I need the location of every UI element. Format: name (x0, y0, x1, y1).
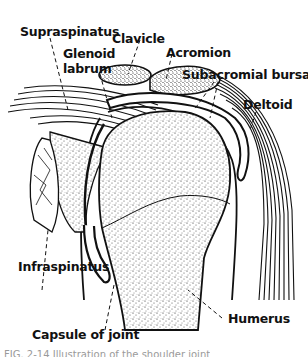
humerus-bone (99, 111, 230, 330)
leader-capsule (105, 285, 114, 330)
label-supraspinatus: Supraspinatus (20, 25, 119, 39)
anatomy-illustration (0, 0, 308, 357)
label-clavicle: Clavicle (112, 32, 165, 46)
label-humerus: Humerus (228, 312, 290, 326)
label-deltoid: Deltoid (243, 98, 293, 112)
label-capsule-of-joint: Capsule of joint (32, 328, 139, 342)
shoulder-joint-diagram: Supraspinatus Clavicle Glenoid labrum Ac… (0, 0, 308, 357)
figure-caption: FIG. 2-14 Illustration of the shoulder j… (4, 348, 210, 357)
label-infraspinatus: Infraspinatus (18, 260, 109, 274)
label-glenoid-labrum-line1: Glenoid (63, 47, 115, 61)
label-subacromial-bursa: Subacromial bursa (182, 68, 308, 82)
label-glenoid-labrum-line2: labrum (63, 62, 112, 76)
label-acromion: Acromion (166, 46, 231, 60)
